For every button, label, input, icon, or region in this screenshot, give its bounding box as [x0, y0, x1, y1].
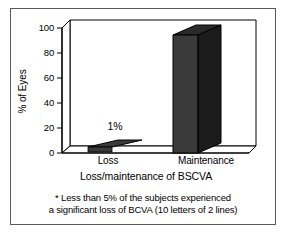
y-tick-label-40: 40	[28, 98, 54, 108]
plot-left-wall	[62, 20, 70, 153]
x-axis-title: Loss/maintenance of BSCVA	[36, 170, 256, 182]
bar-loss-front	[88, 147, 112, 152]
footnote-line-2: a significant loss of BCVA (10 letters o…	[14, 204, 272, 216]
x-category-label-loss: Loss	[78, 155, 138, 166]
y-tick-label-100: 100	[28, 23, 54, 33]
footnote: * Less than 5% of the subjects experienc…	[14, 192, 272, 216]
y-tick-label-80: 80	[28, 48, 54, 58]
bar-loss-data-label: 1%	[95, 120, 135, 132]
y-axis-title: % of Eyes	[17, 57, 28, 127]
x-category-label-maintenance: Maintenance	[163, 155, 249, 166]
y-tick-label-60: 60	[28, 73, 54, 83]
y-tick-label-0: 0	[28, 148, 54, 158]
figure-container: 100 80 60 40 20 0 % of Eyes 1% Loss Main…	[0, 0, 288, 239]
bar-maintenance-front	[173, 35, 198, 153]
bar-maintenance-side	[198, 25, 221, 153]
footnote-line-1: * Less than 5% of the subjects experienc…	[14, 192, 272, 204]
y-tick-label-20: 20	[28, 123, 54, 133]
